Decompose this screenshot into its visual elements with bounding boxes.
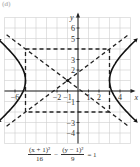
x-tick-label: −2 <box>53 93 62 102</box>
minus-sign: − <box>54 151 58 159</box>
term2-numerator: (y − 1)² <box>61 146 84 155</box>
y-tick-label: −1 <box>66 98 75 107</box>
x-tick-label: −6 <box>11 93 20 102</box>
fraction-1: (x + 1)² 16 <box>28 146 51 163</box>
term2-denominator: 9 <box>71 155 75 163</box>
equals-one: = 1 <box>87 151 96 159</box>
x-axis-label: x <box>134 93 139 102</box>
term1-denominator: 16 <box>36 155 43 163</box>
hyperbola-graph: −6−2−11246532−1−3−4xy <box>0 0 140 167</box>
term1-numerator: (x + 1)² <box>28 146 51 155</box>
y-tick-label: 2 <box>71 66 75 75</box>
equation: (x + 1)² 16 − (y − 1)² 9 = 1 <box>28 146 128 163</box>
y-axis-arrow-icon <box>76 13 80 18</box>
y-tick-label: −4 <box>66 129 75 138</box>
y-axis-label: y <box>69 13 74 22</box>
x-tick-label: 1 <box>87 93 91 102</box>
x-tick-label: 2 <box>97 93 101 102</box>
x-tick-label: 4 <box>118 93 122 102</box>
y-tick-label: 3 <box>71 56 75 65</box>
fraction-2: (y − 1)² 9 <box>61 146 84 163</box>
y-tick-label: 5 <box>71 35 75 44</box>
y-tick-label: −3 <box>66 119 75 128</box>
y-tick-label: 6 <box>71 24 75 33</box>
center-point <box>66 79 69 82</box>
